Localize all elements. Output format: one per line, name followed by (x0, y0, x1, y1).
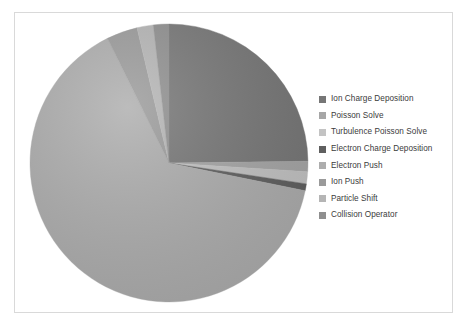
legend-swatch-icon (319, 129, 326, 136)
legend-item-label: Ion Push (331, 177, 364, 187)
pie-shading-overlay (30, 24, 308, 302)
legend-item[interactable]: Ion Push (319, 174, 451, 191)
legend-swatch-icon (319, 112, 326, 119)
legend-item[interactable]: Electron Push (319, 157, 451, 174)
legend-swatch-icon (319, 162, 326, 169)
legend-item-label: Collision Operator (331, 210, 397, 220)
legend-swatch-icon (319, 146, 326, 153)
legend-item-label: Ion Charge Deposition (331, 94, 414, 104)
legend-swatch-icon (319, 195, 326, 202)
chart-frame: Ion Charge Deposition Poisson Solve Turb… (14, 12, 453, 313)
legend-item-label: Poisson Solve (331, 111, 384, 121)
legend-swatch-icon (319, 212, 326, 219)
legend-item-label: Electron Charge Deposition (331, 144, 432, 154)
pie-chart-area (15, 13, 315, 314)
pie-chart-svg (15, 13, 315, 314)
legend-item[interactable]: Ion Charge Deposition (319, 91, 451, 108)
legend-item[interactable]: Collision Operator (319, 207, 451, 224)
legend-item[interactable]: Turbulence Poisson Solve (319, 124, 451, 141)
legend-item[interactable]: Electron Charge Deposition (319, 141, 451, 158)
legend-swatch-icon (319, 96, 326, 103)
legend-item[interactable]: Poisson Solve (319, 108, 451, 125)
legend-item-label: Turbulence Poisson Solve (331, 127, 427, 137)
chart-legend: Ion Charge Deposition Poisson Solve Turb… (319, 91, 451, 224)
legend-item-label: Particle Shift (331, 194, 378, 204)
legend-item-label: Electron Push (331, 161, 383, 171)
legend-item[interactable]: Particle Shift (319, 191, 451, 208)
chart-screenshot: Ion Charge Deposition Poisson Solve Turb… (0, 0, 470, 327)
legend-swatch-icon (319, 179, 326, 186)
